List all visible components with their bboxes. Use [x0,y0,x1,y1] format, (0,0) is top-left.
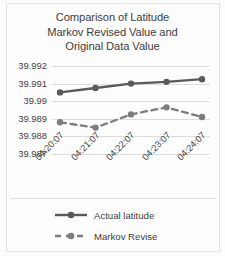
data-point-marker [128,111,134,117]
x-axis: 04:20:0704:21:0704:22:0704:23:0704:24:07 [52,156,210,198]
y-axis-tick-label: 39.989 [18,114,47,123]
y-axis-tick-label: 39.988 [18,132,47,141]
data-point-marker [92,85,98,91]
data-point-marker [57,89,63,95]
legend-item-markov-revise[interactable]: Markov Revise [54,229,157,243]
data-point-marker [57,119,63,125]
data-point-marker [199,76,205,82]
data-point-marker [199,114,205,120]
chart-title-line-2: Markov Revised Value and [8,25,217,40]
chart-title-line-1: Comparison of Latitude [8,10,217,25]
legend-key-solid-line-icon [54,209,88,221]
data-point-marker [163,104,169,110]
y-axis: 39.99239.99139.9939.98939.98839.987 [2,66,49,154]
legend-item-actual-latitude[interactable]: Actual latitude [54,208,154,222]
legend-label-actual-latitude: Actual latitude [94,210,154,221]
data-point-marker [128,80,134,86]
y-axis-tick-label: 39.99 [24,96,47,105]
chart-title-line-3: Original Data Value [8,39,217,54]
chart-legend: Actual latitude Markov Revise [10,198,216,251]
data-point-marker [163,79,169,85]
chart-container: Comparison of Latitude Markov Revised Va… [0,0,225,256]
y-axis-tick-label: 39.992 [18,61,47,70]
legend-label-markov-revise: Markov Revise [94,231,157,242]
legend-key-dashed-line-icon [54,230,88,242]
chart-title: Comparison of Latitude Markov Revised Va… [8,10,217,54]
y-axis-tick-label: 39.991 [18,79,47,88]
